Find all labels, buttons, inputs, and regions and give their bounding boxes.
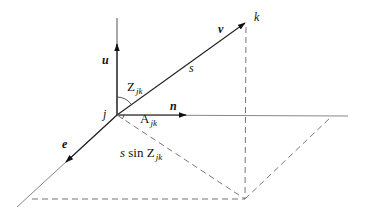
j-point-label: j bbox=[103, 108, 106, 120]
zenith-angle-label: Zjk bbox=[127, 80, 142, 93]
k-point-label: k bbox=[254, 11, 259, 23]
v-vector-line bbox=[117, 23, 245, 115]
zenith-main: Z bbox=[127, 79, 135, 94]
n-label: n bbox=[170, 100, 177, 112]
e-arrow bbox=[66, 115, 117, 162]
u-label: u bbox=[102, 54, 109, 66]
zenith-sub: jk bbox=[136, 86, 143, 96]
foot-to-n-dashed bbox=[245, 117, 331, 199]
azimuth-sub: jk bbox=[150, 118, 157, 128]
diagram-canvas bbox=[0, 0, 365, 217]
v-label: v bbox=[218, 23, 223, 35]
projection-main: Z bbox=[147, 145, 155, 160]
s-distance-label: s bbox=[189, 62, 194, 74]
projection-sub: jk bbox=[156, 152, 163, 162]
zenith-angle-arc bbox=[117, 97, 131, 104]
projection-sin: sin bbox=[125, 145, 147, 160]
azimuth-angle-label: Ajk bbox=[140, 112, 157, 125]
e-label: e bbox=[62, 138, 67, 150]
projection-label: s sin Zjk bbox=[120, 146, 162, 159]
azimuth-main: A bbox=[140, 111, 149, 126]
k-vertical-dashed bbox=[245, 27, 246, 199]
